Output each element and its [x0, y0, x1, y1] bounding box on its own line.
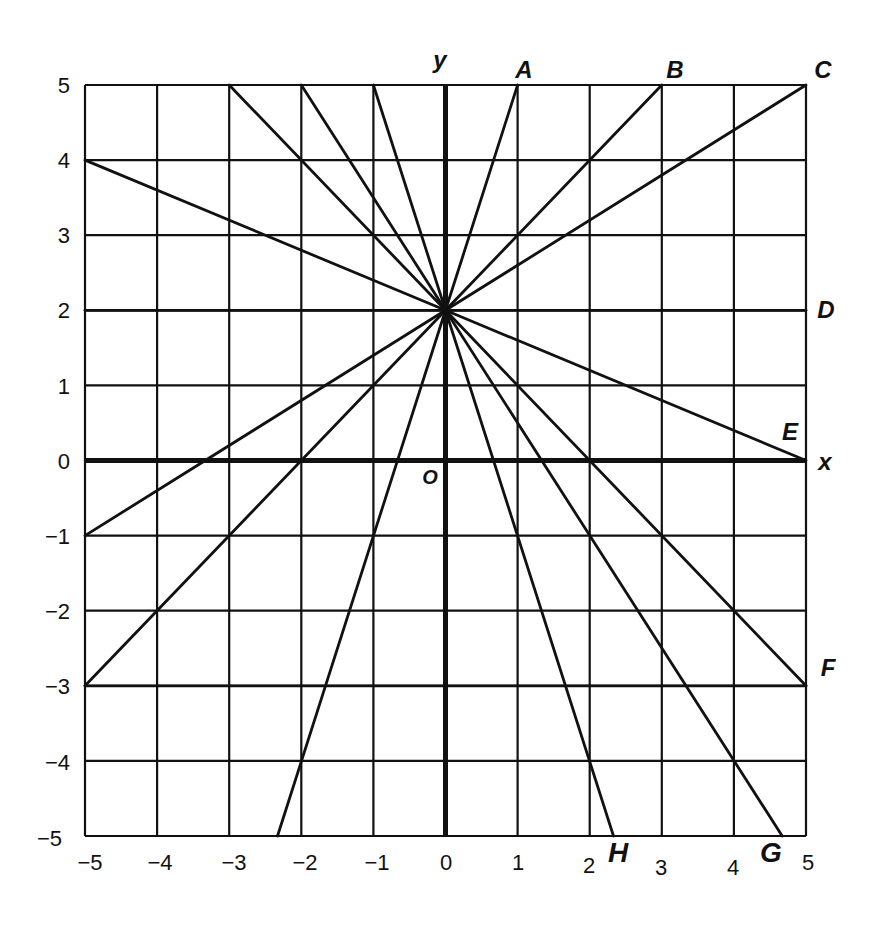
- y-tick: 4: [58, 148, 70, 173]
- y-tick: 1: [58, 374, 70, 399]
- line-a: [446, 85, 518, 310]
- x-axis-label: x: [816, 448, 833, 475]
- x-tick: 1: [512, 850, 524, 875]
- y-tick: −5: [37, 826, 62, 851]
- y-tick: −4: [45, 750, 70, 775]
- line-unlabeled: [278, 310, 446, 836]
- line-unlabeled: [446, 310, 807, 686]
- point-label-c: C: [814, 56, 832, 83]
- line-h: [446, 310, 614, 836]
- y-tick-labels: 5 4 3 2 1 0 −1 −2 −3 −4 −5: [37, 73, 70, 851]
- origin-label: O: [422, 466, 438, 488]
- x-tick-labels: −5 −4 −3 −2 −1 0 1 2 3 4 5: [77, 850, 814, 880]
- point-label-f: F: [821, 654, 837, 681]
- x-tick: −1: [364, 850, 389, 875]
- point-label-b: B: [666, 56, 683, 83]
- point-label-g: G: [760, 837, 782, 868]
- axes: [85, 85, 806, 836]
- x-tick: 0: [440, 850, 452, 875]
- x-tick: 2: [583, 853, 595, 878]
- line-g: [446, 310, 783, 836]
- coordinate-grid-diagram: 5 4 3 2 1 0 −1 −2 −3 −4 −5 −5 −4 −3 −2 −…: [0, 0, 885, 930]
- y-tick: −2: [45, 599, 70, 624]
- x-tick: 5: [802, 850, 814, 875]
- point-label-d: D: [817, 296, 834, 323]
- point-label-h: H: [608, 837, 629, 868]
- y-tick: 5: [58, 73, 70, 98]
- x-tick: −3: [221, 850, 246, 875]
- y-tick: 3: [58, 223, 70, 248]
- line-unlabeled: [373, 85, 445, 310]
- line-unlabeled: [85, 310, 446, 686]
- y-tick: 0: [58, 449, 70, 474]
- line-unlabeled: [229, 85, 445, 310]
- y-tick: −3: [45, 674, 70, 699]
- point-label-a: A: [514, 56, 532, 83]
- x-tick: 3: [655, 855, 667, 880]
- y-tick: −1: [45, 524, 70, 549]
- x-tick: −5: [77, 850, 102, 875]
- line-b: [446, 85, 662, 310]
- line-unlabeled: [85, 310, 446, 535]
- x-tick: −4: [147, 850, 172, 875]
- line-c: [446, 85, 807, 310]
- y-axis-label: y: [432, 46, 448, 73]
- y-tick: 2: [58, 298, 70, 323]
- x-tick: 4: [727, 855, 739, 880]
- point-label-e: E: [782, 418, 799, 445]
- x-tick: −2: [292, 850, 317, 875]
